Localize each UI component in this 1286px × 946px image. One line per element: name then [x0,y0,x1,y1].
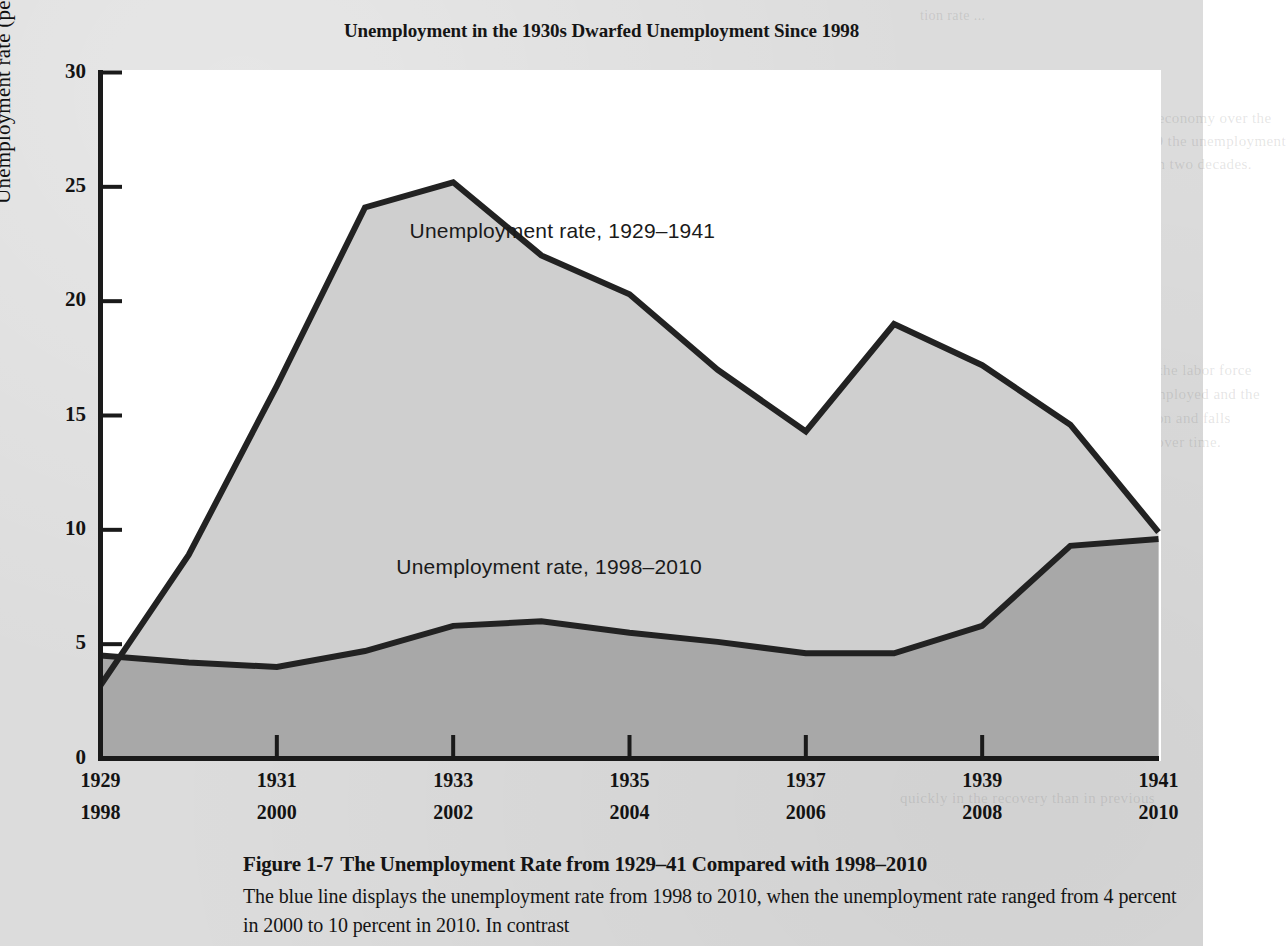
chart-title: Unemployment in the 1930s Dwarfed Unempl… [0,20,1203,42]
x-tick-label-1998-2010: 2006 [746,801,866,824]
y-tick-label: 0 [40,745,86,770]
x-tick-label-group: 19352004 [570,769,690,824]
x-tick-label-1929-1941: 1935 [570,769,690,792]
x-tick-label-1998-2010: 2004 [570,801,690,824]
x-tick-label-1929-1941: 1937 [746,769,866,792]
caption-figure-number: Figure 1-7 [243,852,333,876]
x-tick-label-1998-2010: 2010 [1099,801,1219,824]
x-tick-label-group: 19412010 [1099,769,1219,824]
caption-title: The Unemployment Rate from 1929–41 Compa… [340,852,927,876]
y-tick-label: 20 [40,287,86,312]
caption-heading: Figure 1-7The Unemployment Rate from 192… [243,851,1193,877]
x-tick-label-1998-2010: 1998 [41,801,161,824]
y-axis-title: Unemployment rate (percent) [0,0,16,242]
x-tick-label-1998-2010: 2008 [922,801,1042,824]
x-tick-label-1998-2010: 2002 [393,801,513,824]
x-tick-label-group: 19291998 [41,769,161,824]
chart-svg [98,70,1161,761]
x-tick-label-1929-1941: 1931 [217,769,337,792]
x-tick-label-1929-1941: 1929 [41,769,161,792]
figure-caption: Figure 1-7The Unemployment Rate from 192… [243,851,1193,939]
x-tick-label-group: 19332002 [393,769,513,824]
y-tick-label: 25 [40,173,86,198]
series-annotation: Unemployment rate, 1998–2010 [396,555,702,579]
x-tick-label-group: 19312000 [217,769,337,824]
series-annotation: Unemployment rate, 1929–1941 [410,219,716,243]
y-tick-label: 5 [40,630,86,655]
x-tick-label-1998-2010: 2000 [217,801,337,824]
y-tick-label: 30 [40,59,86,84]
x-tick-label-1929-1941: 1933 [393,769,513,792]
chart-plot-area [98,70,1161,761]
x-tick-label-1929-1941: 1939 [922,769,1042,792]
x-tick-label-1929-1941: 1941 [1099,769,1219,792]
x-tick-label-group: 19372006 [746,769,866,824]
caption-body: The blue line displays the unemployment … [243,882,1193,939]
y-tick-label: 15 [40,402,86,427]
x-tick-label-group: 19392008 [922,769,1042,824]
y-tick-label: 10 [40,516,86,541]
